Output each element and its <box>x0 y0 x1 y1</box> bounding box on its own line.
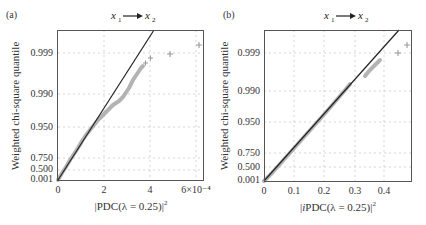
arrowhead-icon <box>350 13 356 19</box>
svg-text:0.999: 0.999 <box>31 47 54 58</box>
svg-text:x: x <box>110 9 116 21</box>
svg-text:0.990: 0.990 <box>31 88 54 99</box>
svg-text:0.2: 0.2 <box>318 185 331 196</box>
svg-text:2: 2 <box>365 16 369 24</box>
panel-b-ylabel: Weighted chi-square quantile <box>218 42 230 171</box>
panel-a-y-ticks: 0.999 0.990 0.950 0.750 0.500 0.001 <box>31 47 54 184</box>
figure: (a) x 1 x 2 <box>0 0 426 225</box>
svg-text:4: 4 <box>148 184 153 195</box>
svg-text:x: x <box>323 9 329 21</box>
svg-text:1: 1 <box>118 16 122 24</box>
panel-b: (b) x 1 x 2 0.9 <box>218 9 412 214</box>
panel-a-reference-line <box>58 30 154 180</box>
svg-text:0.3: 0.3 <box>349 185 362 196</box>
svg-text:x: x <box>144 9 150 21</box>
panel-b-title: x 1 x 2 <box>323 9 369 24</box>
svg-text:0.1: 0.1 <box>288 185 301 196</box>
svg-text:0.990: 0.990 <box>238 85 261 96</box>
svg-text:2: 2 <box>152 16 156 24</box>
panel-a-grid <box>58 30 203 180</box>
svg-text:0.750: 0.750 <box>238 147 261 158</box>
svg-text:0.001: 0.001 <box>238 174 261 185</box>
svg-text:0: 0 <box>262 185 267 196</box>
svg-text:0: 0 <box>56 184 61 195</box>
panel-a-x-ticks: 0 2 4 6×10⁻⁴ <box>56 184 212 195</box>
panel-b-markers <box>264 42 410 181</box>
svg-text:0.500: 0.500 <box>238 161 261 172</box>
svg-text:0.950: 0.950 <box>31 121 54 132</box>
svg-text:0.750: 0.750 <box>31 152 54 163</box>
panel-b-y-ticks: 0.999 0.990 0.950 0.750 0.500 0.001 <box>238 47 261 185</box>
svg-text:1: 1 <box>331 16 335 24</box>
svg-text:x: x <box>357 9 363 21</box>
panel-a-label: (a) <box>6 9 17 21</box>
panel-a-ylabel: Weighted chi-square quantile <box>9 42 21 171</box>
svg-text:0.950: 0.950 <box>238 116 261 127</box>
panel-a-markers <box>58 42 202 180</box>
svg-text:0.001: 0.001 <box>31 173 54 184</box>
panel-b-reference-line <box>264 30 399 181</box>
panel-a: (a) x 1 x 2 <box>6 9 211 213</box>
svg-text:2: 2 <box>102 184 107 195</box>
arrowhead-icon <box>137 13 143 19</box>
panel-b-x-ticks: 0 0.1 0.2 0.3 0.4 <box>262 185 391 196</box>
panel-a-xlabel: |PDC(λ = 0.25)|2 <box>95 199 168 213</box>
svg-text:6×10⁻⁴: 6×10⁻⁴ <box>181 184 211 195</box>
svg-text:0.999: 0.999 <box>238 47 261 58</box>
panel-b-label: (b) <box>223 9 235 21</box>
panel-b-xlabel: |iPDC(λ = 0.25)|2 <box>300 200 376 214</box>
panel-a-title: x 1 x 2 <box>110 9 156 24</box>
svg-text:0.4: 0.4 <box>378 185 391 196</box>
